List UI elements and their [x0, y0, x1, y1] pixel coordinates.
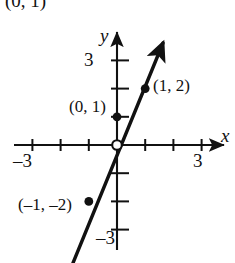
coordinate-plane-figure: (0, 1) — [0, 0, 235, 263]
y-tick-label-minus3: –3 — [96, 228, 115, 247]
y-axis-label: y — [100, 26, 108, 45]
x-tick-label-3: 3 — [193, 151, 203, 170]
point-label-1-2: (1, 2) — [153, 77, 190, 94]
y-tick-label-3: 3 — [84, 50, 94, 69]
origin-open-circle-marker — [112, 140, 122, 150]
point-label-minus1-minus2: (–1, –2) — [18, 196, 72, 213]
x-tick-label-minus3: –3 — [13, 151, 32, 170]
point-label-0-1: (0, 1) — [69, 98, 106, 115]
x-axis-label: x — [221, 126, 229, 145]
point-marker-1-2 — [141, 84, 150, 93]
graph-canvas — [0, 0, 235, 263]
point-marker-minus1-minus2 — [84, 197, 93, 206]
point-marker-0-1 — [113, 112, 122, 121]
